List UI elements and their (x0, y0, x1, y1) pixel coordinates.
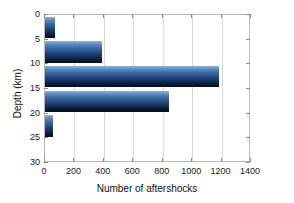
y-tick-label: 25 (18, 132, 40, 142)
y-tick (44, 137, 48, 138)
x-gridline (222, 15, 223, 161)
y-tick-label: 20 (18, 108, 40, 118)
x-axis-title: Number of aftershocks (0, 183, 294, 194)
x-tick (250, 158, 251, 162)
x-tick-label: 800 (154, 166, 169, 176)
chart-figure: Number of aftershocks Depth (km) 0200400… (0, 0, 294, 203)
y-tick (44, 113, 48, 114)
y-tick-right (246, 137, 250, 138)
x-tick-top (162, 14, 163, 18)
x-gridline (192, 15, 193, 161)
bar-10-15km (45, 66, 219, 87)
x-gridline (104, 15, 105, 161)
bar-5-10km (45, 41, 102, 62)
y-tick-label: 5 (18, 34, 40, 44)
x-tick (191, 158, 192, 162)
x-tick-label: 1400 (240, 166, 260, 176)
x-tick (221, 158, 222, 162)
bar-20-25km (45, 115, 53, 136)
y-tick (44, 88, 48, 89)
plot-area (44, 14, 250, 162)
x-tick-top (250, 14, 251, 18)
x-tick (73, 158, 74, 162)
y-tick-right (246, 113, 250, 114)
bar-15-20km (45, 91, 169, 112)
x-tick-label: 400 (95, 166, 110, 176)
x-gridline (74, 15, 75, 161)
x-tick (132, 158, 133, 162)
x-gridline (133, 15, 134, 161)
bar-0-5km (45, 17, 55, 38)
y-tick-right (246, 63, 250, 64)
y-tick (44, 63, 48, 64)
x-tick-label: 200 (66, 166, 81, 176)
x-tick-top (221, 14, 222, 18)
y-tick (44, 14, 48, 15)
x-tick (103, 158, 104, 162)
x-tick-label: 1000 (181, 166, 201, 176)
y-tick-label: 10 (18, 58, 40, 68)
y-tick-right (246, 39, 250, 40)
x-tick-label: 1200 (211, 166, 231, 176)
y-tick-right (246, 162, 250, 163)
x-tick-top (191, 14, 192, 18)
y-tick-right (246, 14, 250, 15)
x-tick-top (103, 14, 104, 18)
x-gridline (163, 15, 164, 161)
y-tick (44, 162, 48, 163)
x-tick-label: 600 (125, 166, 140, 176)
y-tick-label: 15 (18, 83, 40, 93)
x-tick-top (132, 14, 133, 18)
x-tick-top (73, 14, 74, 18)
y-tick-right (246, 88, 250, 89)
y-tick (44, 39, 48, 40)
y-tick-label: 30 (18, 157, 40, 167)
x-tick-label: 0 (41, 166, 46, 176)
x-tick (162, 158, 163, 162)
y-tick-label: 0 (18, 9, 40, 19)
